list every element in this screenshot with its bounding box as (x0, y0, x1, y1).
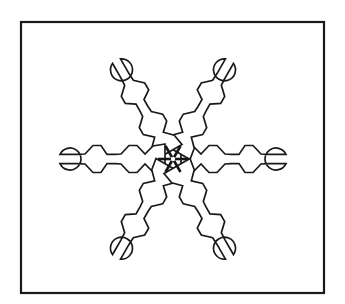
hub-center-dot (171, 157, 175, 161)
radial-star-diagram (0, 0, 345, 304)
figure-canvas: Six-armed radial star figure Black line-… (0, 0, 345, 304)
